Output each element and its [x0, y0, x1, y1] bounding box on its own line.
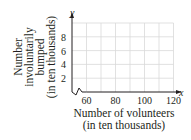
y-tick-4: 4: [61, 59, 66, 70]
y-axis: [70, 12, 74, 92]
x-tick-60: 60: [82, 95, 92, 106]
x-axis-title-line-2: (in ten thousands): [83, 119, 166, 132]
y-axis-title-line-4: (in ten thousands): [45, 16, 58, 99]
y-axis-title: Number involuntarily bumped (in ten thou…: [12, 16, 58, 99]
x-tick-80: 80: [111, 95, 121, 106]
x-axis: [72, 88, 182, 95]
y-axis-variable: y: [69, 7, 75, 18]
x-tick-120: 120: [166, 95, 181, 106]
empty-coordinate-grid-chart: y x 8 6 4 2 60 80 100 120 Number of volu…: [0, 0, 191, 140]
y-tick-8: 8: [61, 32, 66, 43]
x-axis-break-zigzag: [72, 88, 177, 95]
y-tick-2: 2: [61, 73, 66, 84]
grid-lines: [72, 23, 174, 92]
x-axis-title-line-1: Number of volunteers: [74, 107, 175, 119]
y-tick-6: 6: [61, 46, 66, 57]
x-tick-100: 100: [137, 95, 152, 106]
